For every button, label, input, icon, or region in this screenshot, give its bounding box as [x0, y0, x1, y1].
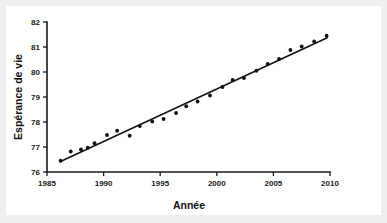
scatter-plot: 76777879808182 198519901995200020052010 …	[6, 6, 381, 215]
x-tick-label: 2005	[265, 179, 283, 188]
data-point	[221, 85, 225, 89]
data-point	[79, 148, 83, 152]
regression-line	[59, 38, 327, 163]
y-tick-label: 81	[31, 43, 40, 52]
x-tick-label: 1985	[38, 179, 56, 188]
y-axis-ticks: 76777879808182	[31, 18, 47, 177]
data-point	[174, 111, 178, 115]
axes	[47, 22, 330, 172]
data-point	[255, 69, 259, 73]
y-tick-label: 80	[31, 68, 40, 77]
data-point	[288, 48, 292, 52]
data-point	[312, 40, 316, 44]
data-point	[231, 78, 235, 82]
y-tick-label: 77	[31, 143, 40, 152]
figure-container: 76777879808182 198519901995200020052010 …	[0, 0, 387, 223]
x-axis-title: Année	[173, 199, 205, 211]
data-point	[105, 133, 109, 137]
y-tick-label: 78	[31, 118, 40, 127]
data-point	[59, 159, 63, 163]
data-point	[325, 34, 329, 38]
data-point	[128, 134, 132, 138]
regression-line-group	[59, 38, 327, 163]
x-tick-label: 1990	[95, 179, 113, 188]
x-axis-ticks: 198519901995200020052010	[38, 172, 339, 188]
y-tick-label: 82	[31, 18, 40, 27]
x-tick-label: 2010	[321, 179, 339, 188]
data-point	[266, 62, 270, 66]
y-axis-title: Espérance de vie	[12, 54, 24, 140]
x-tick-label: 1995	[151, 179, 169, 188]
x-tick-label: 2000	[208, 179, 226, 188]
data-point	[69, 150, 73, 154]
data-point	[86, 146, 90, 150]
data-point	[115, 129, 119, 133]
data-point	[93, 141, 97, 145]
data-point	[196, 100, 200, 104]
data-point	[162, 117, 166, 121]
data-point	[277, 57, 281, 61]
data-point	[300, 45, 304, 49]
data-point	[208, 94, 212, 98]
data-point	[138, 124, 142, 128]
data-point	[184, 104, 188, 108]
y-tick-label: 76	[31, 168, 40, 177]
data-point	[242, 76, 246, 80]
y-tick-label: 79	[31, 93, 40, 102]
data-point	[150, 120, 154, 124]
chart-card: 76777879808182 198519901995200020052010 …	[6, 6, 381, 215]
